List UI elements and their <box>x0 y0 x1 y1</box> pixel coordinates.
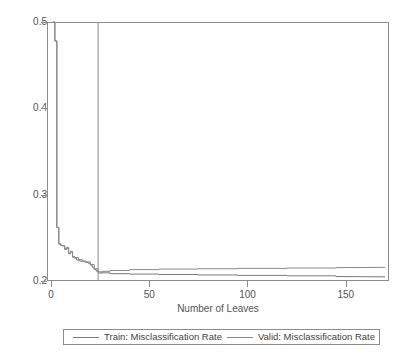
plot-data-surface <box>47 22 389 281</box>
legend-label-train: Train: Misclassification Rate <box>104 332 222 342</box>
x-axis-title: Number of Leaves <box>47 303 389 315</box>
y-axis-tick-mark <box>41 281 47 282</box>
y-axis-tick: 0.5 <box>0 17 47 27</box>
legend-label-valid: Valid: Misclassification Rate <box>258 332 375 342</box>
series-line-train <box>53 22 385 277</box>
legend-entry-train: Train: Misclassification Rate <box>68 332 222 342</box>
legend-entry-valid: Valid: Misclassification Rate <box>222 332 375 342</box>
y-axis-tick: 0.2 <box>0 276 47 286</box>
x-axis-tick-mark <box>346 281 347 287</box>
x-axis-tick-label: 150 <box>326 289 366 300</box>
y-axis-tick: 0.4 <box>0 103 47 113</box>
series-line-valid <box>53 22 385 273</box>
x-axis-tick-label: 100 <box>227 289 267 300</box>
misclassification-rate-chart: 0.20.30.40.5 050100150 Number of Leaves … <box>0 0 409 353</box>
x-axis-tick-label: 0 <box>31 289 71 300</box>
x-axis-tick-mark <box>51 281 52 287</box>
legend-line-swatch-train <box>73 337 99 338</box>
y-axis-tick: 0.3 <box>0 190 47 200</box>
x-axis-tick-mark <box>149 281 150 287</box>
chart-legend: Train: Misclassification Rate Valid: Mis… <box>63 329 380 345</box>
x-axis-tick-label: 50 <box>129 289 169 300</box>
legend-line-swatch-valid <box>227 337 253 338</box>
x-axis-tick-mark <box>247 281 248 287</box>
